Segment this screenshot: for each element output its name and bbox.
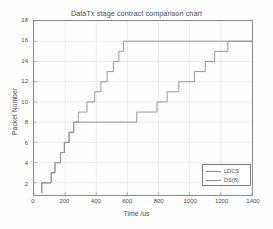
x-tick-label: 1000 — [183, 198, 196, 204]
legend-line-swatch-ds8 — [206, 180, 221, 181]
legend-item-ds8[interactable]: DS(8) — [205, 176, 248, 185]
x-tick-label: 0 — [31, 198, 34, 204]
legend-item-ldcs[interactable]: LDCS — [205, 167, 248, 176]
y-axis-title: Packet Number — [11, 67, 18, 157]
legend-line-swatch-ldcs — [206, 171, 221, 172]
y-tick-label: 12 — [21, 78, 28, 84]
y-tick-label: 16 — [21, 37, 28, 43]
y-tick-label: 8 — [25, 119, 28, 125]
y-tick-label: 6 — [25, 140, 28, 146]
x-tick-label: 600 — [122, 198, 132, 204]
legend[interactable]: LDCS DS(8) — [202, 164, 251, 186]
x-tick-label: 400 — [91, 198, 101, 204]
y-tick-label: 4 — [25, 160, 28, 166]
x-tick-label: 1400 — [246, 198, 259, 204]
chart-figure: DataTx stage contract comparison chart 2… — [0, 0, 273, 229]
y-tick-label: 10 — [21, 99, 28, 105]
legend-label-ds8: DS(8) — [224, 176, 239, 185]
y-tick-label: 18 — [21, 17, 28, 23]
y-tick-label: 14 — [21, 58, 28, 64]
legend-label-ldcs: LDCS — [224, 167, 239, 176]
x-tick-label: 200 — [59, 198, 69, 204]
x-tick-label: 1200 — [215, 198, 228, 204]
x-axis-tick-labels: 0200400600800100012001400 — [33, 198, 253, 210]
x-axis-title: Time /us — [0, 210, 273, 217]
x-tick-label: 800 — [154, 198, 164, 204]
chart-title: DataTx stage contract comparison chart — [0, 9, 273, 18]
y-tick-label: 2 — [25, 181, 28, 187]
